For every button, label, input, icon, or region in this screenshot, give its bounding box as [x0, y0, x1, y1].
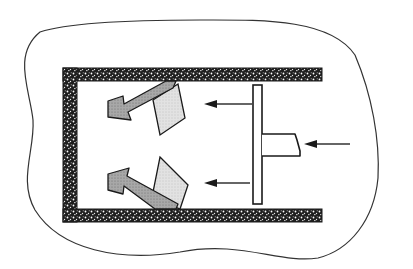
piston-channel-diagram — [0, 0, 413, 269]
upper-flow-arrow — [204, 100, 252, 108]
left-wall — [63, 68, 77, 222]
lower-flow-arrow — [204, 179, 250, 187]
outer-boundary — [25, 20, 379, 259]
push-arrow — [304, 140, 350, 148]
piston-plate — [253, 85, 262, 204]
bottom-wall — [63, 209, 322, 222]
top-wall — [63, 68, 322, 81]
piston-rod — [262, 134, 300, 156]
